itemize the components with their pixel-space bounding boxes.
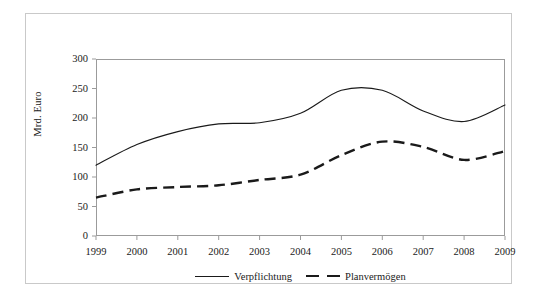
legend-label-planvermoegen: Planvermögen: [345, 271, 406, 282]
y-tick-label: 0: [54, 230, 88, 241]
y-axis-ticks: [92, 59, 96, 236]
x-tick-label: 2003: [240, 246, 280, 257]
x-tick-label: 2008: [444, 246, 484, 257]
x-tick-label: 2007: [403, 246, 443, 257]
x-axis-ticks: [96, 236, 505, 240]
series-lines: [96, 88, 505, 198]
x-tick-label: 2005: [321, 246, 361, 257]
y-tick-label: 250: [54, 83, 88, 94]
series-line-2: [96, 141, 505, 197]
y-tick-label: 150: [54, 142, 88, 153]
y-tick-label: 100: [54, 171, 88, 182]
chart-legend: Verpflichtung Planvermögen: [96, 268, 505, 284]
y-tick-label: 300: [54, 53, 88, 64]
x-tick-label: 2000: [117, 246, 157, 257]
legend-dashed-line-icon: [306, 275, 340, 278]
legend-item-verpflichtung[interactable]: Verpflichtung: [195, 271, 292, 282]
x-tick-label: 1999: [76, 246, 116, 257]
legend-solid-line-icon: [195, 276, 229, 277]
x-tick-label: 2002: [199, 246, 239, 257]
y-tick-label: 50: [54, 201, 88, 212]
legend-item-planvermoegen[interactable]: Planvermögen: [306, 271, 406, 282]
chart-figure: Mrd. Euro 050100150200250300 19992000200…: [0, 0, 534, 300]
x-tick-label: 2004: [281, 246, 321, 257]
x-tick-label: 2006: [362, 246, 402, 257]
x-tick-label: 2001: [158, 246, 198, 257]
legend-label-verpflichtung: Verpflichtung: [234, 271, 292, 282]
x-tick-label: 2009: [485, 246, 525, 257]
y-tick-label: 200: [54, 112, 88, 123]
